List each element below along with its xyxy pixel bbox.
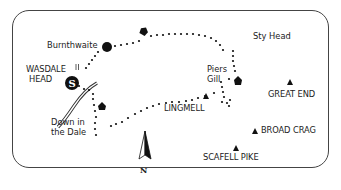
direction-arrow-icon <box>139 26 150 37</box>
north-arrow-icon <box>139 131 151 159</box>
summit-triangle-icon <box>233 145 239 151</box>
scafell-pike-label: SCAFELL PIKE <box>203 153 259 163</box>
settlement-dot-icon <box>102 42 112 52</box>
wasdale-head-label-line2: HEAD <box>29 75 52 85</box>
sty-head-label: Sty Head <box>253 32 291 42</box>
burnthwaite-label: Burnthwaite <box>47 41 98 51</box>
summit-triangle-icon <box>287 79 293 85</box>
lingmell-label: LINGMELL <box>164 104 205 114</box>
down-in-the-dale-label-line2: the Dale <box>51 128 86 138</box>
summit-triangle-icon <box>203 93 209 99</box>
summit-triangle-icon <box>252 128 258 134</box>
piers-gill-label-line2: Gill <box>207 75 220 85</box>
route-path <box>78 33 236 136</box>
direction-arrow-icon <box>234 76 242 85</box>
start-marker-icon: S <box>65 76 79 90</box>
broad-crag-label: BROAD CRAG <box>261 126 316 136</box>
direction-arrow-icon <box>98 102 106 110</box>
north-label: N <box>140 166 147 176</box>
great-end-label: GREAT END <box>268 90 315 100</box>
gate-mark-icon <box>76 64 79 70</box>
svg-text:S: S <box>68 78 75 89</box>
